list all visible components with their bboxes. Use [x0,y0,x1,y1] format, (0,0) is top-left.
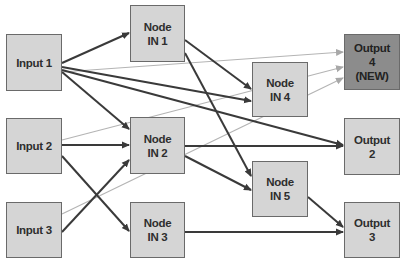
node-label: Output 3 [354,216,390,244]
node-label: Node IN 1 [144,20,172,48]
node-output-2: Output 2 [344,118,400,175]
edge-in1-in4 [185,40,251,89]
node-input-3: Input 3 [6,202,62,258]
node-in-1: Node IN 1 [130,5,185,62]
edge-in2-in5 [185,156,251,190]
node-label: Input 2 [16,139,52,153]
node-label: Node IN 5 [266,175,294,203]
node-output-4-new: Output 4 (NEW) [344,34,400,90]
node-input-1: Input 1 [6,34,62,91]
node-label: Output 2 [354,133,390,161]
node-label: Node IN 2 [144,132,172,160]
node-output-3: Output 3 [344,202,400,258]
node-label: Input 3 [16,223,52,237]
edge-input1-in2 [62,72,129,129]
network-diagram: Input 1 Input 2 Input 3 Node IN 1 Node I… [0,0,413,272]
node-in-3: Node IN 3 [130,202,185,258]
node-input-2: Input 2 [6,118,62,174]
node-in-2: Node IN 2 [130,117,185,174]
edge-input1-in1 [62,33,129,63]
node-label: Node IN 3 [144,216,172,244]
node-label: Output 4 (NEW) [354,41,390,83]
edge-in1-in5 [185,53,251,176]
node-label: Node IN 4 [266,76,294,104]
node-in-5: Node IN 5 [252,161,308,217]
node-label: Input 1 [16,56,52,70]
edge-in5-output3 [308,197,343,227]
node-in-4: Node IN 4 [252,62,308,117]
